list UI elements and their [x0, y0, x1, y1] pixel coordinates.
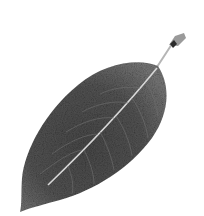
leaf-illustration — [0, 0, 204, 216]
leaf-blade — [20, 62, 167, 212]
leaf-photo — [0, 0, 204, 216]
stem — [155, 33, 186, 70]
